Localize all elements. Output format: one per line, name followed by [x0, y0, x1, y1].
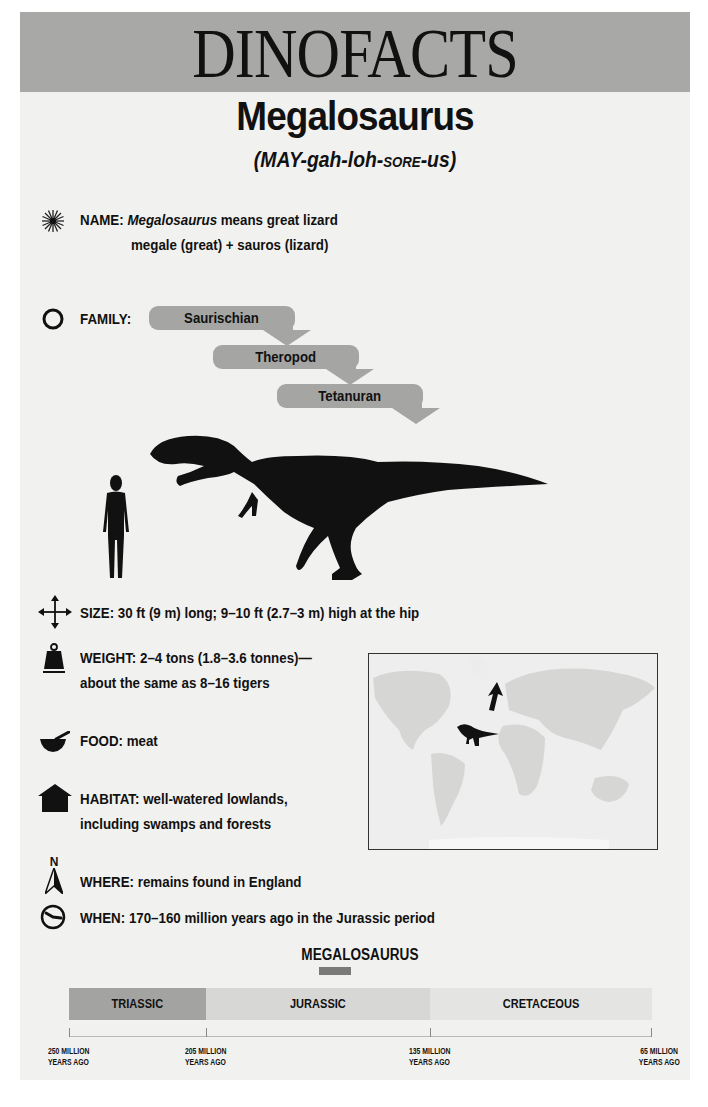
period-jurassic: JURASSIC [206, 988, 430, 1020]
banner: DINOFACTS [20, 12, 690, 92]
fact-label: HABITAT: [80, 790, 139, 807]
circle-icon [42, 308, 64, 330]
fact-where: WHERE: remains found in England [80, 870, 301, 894]
fact-text: remains found in England [134, 873, 301, 890]
starburst-icon [42, 210, 64, 232]
fact-size: SIZE: 30 ft (9 m) long; 9–10 ft (2.7–3 m… [80, 601, 419, 625]
world-map-continents [369, 654, 657, 849]
fact-text: 2–4 tons (1.8–3.6 tonnes)— [136, 649, 312, 666]
down-arrow-icon [392, 396, 440, 424]
fact-habitat-detail: including swamps and forests [80, 812, 271, 836]
pronunciation-stress: SORE [383, 153, 420, 170]
down-arrow-icon [263, 318, 311, 346]
location-arrow-icon [488, 682, 503, 711]
banner-title: DINOFACTS [67, 14, 643, 94]
north-letter: N [45, 856, 63, 868]
fact-text: meat [123, 732, 158, 749]
period-cretaceous: CRETACEOUS [430, 988, 652, 1020]
pronunciation: (MAY-gah-loh-SORE-us) [60, 147, 650, 173]
fact-family-label: FAMILY: [80, 307, 131, 331]
fact-text: 170–160 million years ago in the Jurassi… [125, 909, 435, 926]
north-arrow-icon: N [45, 856, 63, 896]
fact-label: WEIGHT: [80, 649, 136, 666]
world-map [368, 653, 658, 850]
period-triassic: TRIASSIC [69, 988, 206, 1020]
fact-name: NAME: Megalosaurus means great lizard [80, 208, 338, 232]
fact-label: NAME: [80, 211, 124, 228]
timeline-title: MEGALOSAURUS [260, 946, 460, 964]
weight-icon [42, 643, 66, 675]
fact-label: WHERE: [80, 873, 134, 890]
house-icon [38, 784, 72, 812]
human-silhouette [100, 474, 132, 582]
tick-label-135: 135 MILLIONYEARS AGO [395, 1045, 465, 1067]
tick-mark [430, 1028, 431, 1037]
tick-label-65: 65 MILLIONYEARS AGO [624, 1045, 694, 1067]
fact-weight: WEIGHT: 2–4 tons (1.8–3.6 tonnes)— [80, 646, 312, 670]
megalosaurus-silhouette [148, 432, 548, 582]
pronunciation-part: (MAY-gah-loh- [254, 147, 383, 172]
pronunciation-part: -us) [421, 147, 456, 172]
fact-food: FOOD: meat [80, 729, 158, 753]
fact-text: means great lizard [217, 211, 338, 228]
tick-mark [206, 1028, 207, 1037]
tick-label-205: 205 MILLIONYEARS AGO [171, 1045, 241, 1067]
fact-weight-comparison: about the same as 8–16 tigers [80, 671, 270, 695]
fact-italic-name: Megalosaurus [127, 211, 217, 228]
megalosaurus-time-marker [319, 967, 351, 975]
fact-text: 30 ft (9 m) long; 9–10 ft (2.7–3 m) high… [114, 604, 419, 621]
tick-label-250: 250 MILLIONYEARS AGO [34, 1045, 104, 1067]
down-arrow-icon [326, 357, 374, 385]
timeline-axis [69, 1036, 652, 1037]
dinosaur-name: Megalosaurus [54, 93, 657, 140]
fact-habitat: HABITAT: well-watered lowlands, [80, 787, 288, 811]
fact-when: WHEN: 170–160 million years ago in the J… [80, 906, 435, 930]
fact-label: WHEN: [80, 909, 125, 926]
fact-name-etymology: megale (great) + sauros (lizard) [131, 233, 328, 257]
fact-label: FOOD: [80, 732, 123, 749]
tick-mark [651, 1028, 652, 1037]
clock-icon [40, 904, 66, 930]
mortar-pestle-icon [40, 731, 70, 753]
fact-label: SIZE: [80, 604, 114, 621]
fact-text: well-watered lowlands, [139, 790, 287, 807]
four-way-arrow-icon [38, 595, 72, 629]
tick-mark [69, 1028, 70, 1037]
map-dino-icon [457, 724, 499, 746]
